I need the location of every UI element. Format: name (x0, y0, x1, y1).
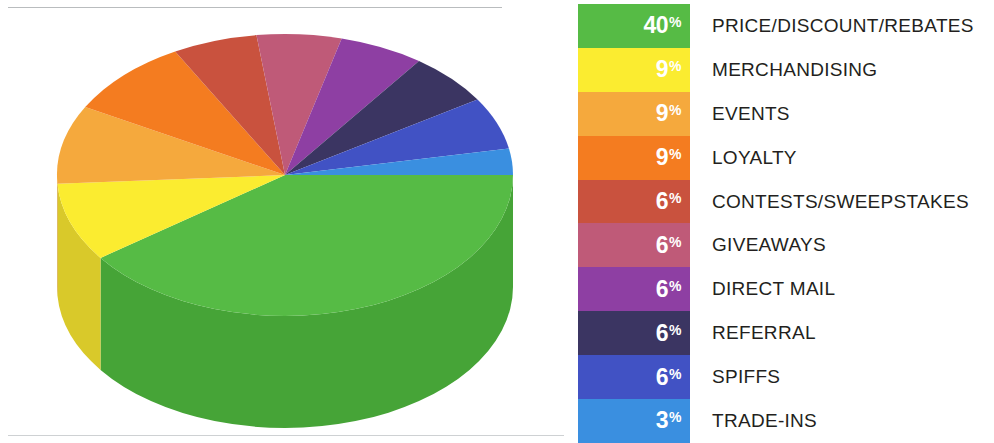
legend-percent-number: 9 (656, 146, 668, 169)
legend-percent-number: 9 (656, 58, 668, 81)
legend-percent-value: 40% (643, 14, 690, 37)
legend-row[interactable]: 6%GIVEAWAYS (578, 223, 988, 267)
pie-chart-region (0, 0, 570, 443)
legend-percent-number: 9 (656, 102, 668, 125)
legend-percent-number: 6 (656, 366, 668, 389)
legend-percent-number: 3 (656, 409, 668, 432)
legend-color-swatch: 9% (578, 92, 690, 136)
legend-category-label: SPIFFS (690, 355, 988, 399)
chart-page: 40%PRICE/DISCOUNT/REBATES9%MERCHANDISING… (0, 0, 994, 443)
legend-category-label: TRADE-INS (690, 399, 988, 443)
legend-category-label: PRICE/DISCOUNT/REBATES (690, 4, 988, 48)
legend-percent-value: 3% (656, 409, 690, 432)
legend-percent-value: 6% (656, 234, 690, 257)
percent-sign-icon: % (669, 191, 681, 205)
legend-percent-value: 6% (656, 278, 690, 301)
legend-percent-value: 9% (656, 146, 690, 169)
legend-row[interactable]: 9%MERCHANDISING (578, 48, 988, 92)
percent-sign-icon: % (669, 410, 681, 424)
legend-row[interactable]: 3%TRADE-INS (578, 399, 988, 443)
legend-percent-value: 6% (656, 366, 690, 389)
legend-color-swatch: 9% (578, 48, 690, 92)
legend-row[interactable]: 9%LOYALTY (578, 136, 988, 180)
percent-sign-icon: % (669, 147, 681, 161)
legend-color-swatch: 3% (578, 399, 690, 443)
legend-percent-value: 9% (656, 58, 690, 81)
legend-color-swatch: 6% (578, 180, 690, 224)
pie-chart-svg (0, 0, 570, 443)
legend-color-swatch: 6% (578, 311, 690, 355)
percent-sign-icon: % (669, 279, 681, 293)
legend-color-swatch: 6% (578, 223, 690, 267)
legend-color-swatch: 9% (578, 136, 690, 180)
legend-row[interactable]: 6%DIRECT MAIL (578, 267, 988, 311)
chart-legend: 40%PRICE/DISCOUNT/REBATES9%MERCHANDISING… (578, 4, 988, 443)
percent-sign-icon: % (669, 235, 681, 249)
legend-row[interactable]: 6%REFERRAL (578, 311, 988, 355)
legend-color-swatch: 6% (578, 355, 690, 399)
pie-top-face (57, 34, 513, 316)
legend-percent-value: 6% (656, 322, 690, 345)
legend-percent-number: 40 (643, 14, 668, 37)
legend-category-label: LOYALTY (690, 136, 988, 180)
legend-row[interactable]: 6%CONTESTS/SWEEPSTAKES (578, 180, 988, 224)
legend-category-label: CONTESTS/SWEEPSTAKES (690, 180, 988, 224)
percent-sign-icon: % (669, 323, 681, 337)
legend-percent-number: 6 (656, 322, 668, 345)
legend-percent-number: 6 (656, 278, 668, 301)
legend-percent-number: 6 (656, 234, 668, 257)
legend-percent-number: 6 (656, 190, 668, 213)
legend-category-label: MERCHANDISING (690, 48, 988, 92)
legend-category-label: DIRECT MAIL (690, 267, 988, 311)
legend-category-label: EVENTS (690, 92, 988, 136)
legend-row[interactable]: 9%EVENTS (578, 92, 988, 136)
percent-sign-icon: % (669, 59, 681, 73)
legend-row[interactable]: 40%PRICE/DISCOUNT/REBATES (578, 4, 988, 48)
percent-sign-icon: % (669, 103, 681, 117)
legend-color-swatch: 6% (578, 267, 690, 311)
percent-sign-icon: % (669, 15, 681, 29)
legend-percent-value: 9% (656, 102, 690, 125)
legend-percent-value: 6% (656, 190, 690, 213)
legend-category-label: REFERRAL (690, 311, 988, 355)
legend-color-swatch: 40% (578, 4, 690, 48)
legend-row[interactable]: 6%SPIFFS (578, 355, 988, 399)
percent-sign-icon: % (669, 367, 681, 381)
legend-category-label: GIVEAWAYS (690, 223, 988, 267)
